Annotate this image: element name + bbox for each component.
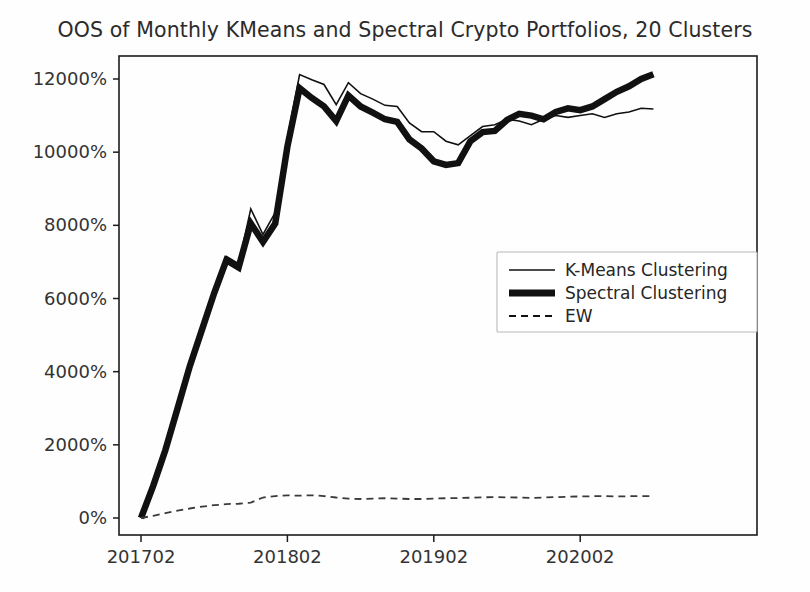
chart-plot-area: 0%2000%4000%6000%8000%10000%12000%201702… (0, 0, 810, 592)
x-tick-label: 202002 (546, 546, 615, 567)
x-tick-label: 201802 (253, 546, 322, 567)
y-tick-label: 12000% (33, 68, 107, 89)
y-tick-label: 8000% (44, 214, 107, 235)
chart-figure: OOS of Monthly KMeans and Spectral Crypt… (0, 0, 810, 592)
y-tick-label: 10000% (33, 141, 107, 162)
x-tick-label: 201702 (107, 546, 176, 567)
y-tick-label: 6000% (44, 288, 107, 309)
y-tick-label: 2000% (44, 434, 107, 455)
legend[interactable]: K-Means ClusteringSpectral ClusteringEW (497, 252, 757, 332)
x-tick-label: 201902 (399, 546, 468, 567)
series-line (141, 495, 653, 518)
y-tick-label: 4000% (44, 361, 107, 382)
y-tick-label: 0% (78, 507, 107, 528)
legend-entry-label: EW (565, 306, 593, 326)
legend-entry-label: Spectral Clustering (565, 283, 727, 303)
legend-entry-label: K-Means Clustering (565, 260, 728, 280)
